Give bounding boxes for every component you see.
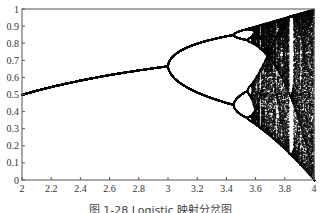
figure-caption: 图 1-28 Logistic 映射分岔图: [0, 201, 321, 213]
y-tick-label: 0.1: [7, 157, 20, 168]
x-tick-label: 2.2: [45, 183, 58, 194]
y-tick-label: 0.7: [7, 55, 20, 66]
y-tick-label: 0.2: [7, 140, 20, 151]
x-tick-label: 2: [20, 183, 25, 194]
x-tick-label: 3.6: [249, 183, 262, 194]
x-tick-label: 2.8: [133, 183, 146, 194]
x-tick-label: 3.2: [191, 183, 204, 194]
y-tick-label: 0.5: [7, 89, 20, 100]
x-tick-label: 2.4: [74, 183, 87, 194]
y-tick-label: 0.6: [7, 72, 20, 83]
y-tick-label: 1: [14, 4, 19, 15]
x-tick-label: 3.4: [220, 183, 233, 194]
y-tick-label: 0.3: [7, 123, 20, 134]
x-tick-label: 3: [166, 183, 171, 194]
y-tick-label: 0.4: [7, 106, 20, 117]
bifurcation-chart: 22.22.42.62.833.23.43.63.84 00.10.20.30.…: [0, 0, 321, 200]
y-tick-label: 0: [14, 175, 19, 186]
x-tick-label: 3.8: [279, 183, 292, 194]
bifurcation-points: [22, 9, 315, 181]
y-tick-label: 0.8: [7, 38, 20, 49]
x-tick-label: 2.6: [103, 183, 116, 194]
x-tick-label: 4: [312, 183, 317, 194]
y-tick-label: 0.9: [7, 21, 20, 32]
